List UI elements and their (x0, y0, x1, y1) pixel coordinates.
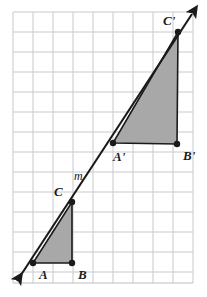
geometry-figure: ABCA'B'C' m (0, 0, 207, 297)
point-label-c-prime: C' (163, 13, 176, 28)
point-label-c: C (54, 184, 63, 199)
point-dot-c-prime (175, 29, 181, 35)
point-label-a: A (38, 267, 48, 282)
point-label-b-prime: B' (182, 148, 196, 163)
point-dot-c (69, 199, 75, 205)
point-dot-b-prime (174, 141, 180, 147)
point-dot-a-prime (110, 140, 116, 146)
point-dot-a (30, 260, 36, 266)
point-label-a-prime: A' (112, 149, 126, 164)
point-label-b: B (77, 267, 87, 282)
line-m-label: m (74, 169, 83, 183)
point-dot-b (69, 260, 75, 266)
figure-canvas: ABCA'B'C' m (0, 0, 207, 297)
